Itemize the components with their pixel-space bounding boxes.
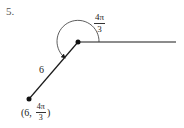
pole-point [76, 40, 81, 45]
angle-numerator: 4π [94, 13, 105, 24]
angle-label: 4π 3 [94, 6, 105, 34]
radius-segment [29, 42, 78, 99]
point-close-paren: ) [47, 107, 50, 118]
point-theta-denominator: 3 [39, 113, 43, 122]
plotted-point [27, 97, 32, 102]
point-separator: , [29, 107, 32, 118]
point-label: ( 6 , 4π 3 ) [21, 103, 50, 122]
radius-label: 6 [39, 64, 44, 75]
angle-arc-icon [57, 20, 99, 57]
angle-denominator: 3 [97, 24, 102, 34]
point-theta-numerator: 4π [36, 103, 46, 113]
